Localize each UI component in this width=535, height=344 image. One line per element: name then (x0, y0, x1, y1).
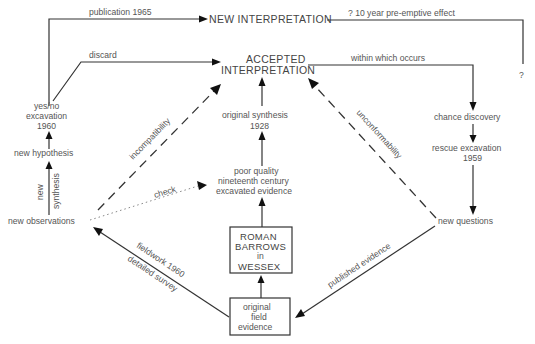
node-roman-line4: WESSEX (238, 261, 281, 272)
node-new-observations: new observations (8, 216, 75, 226)
node-question-mark: ? (519, 70, 524, 80)
node-roman-line3: in (257, 251, 264, 261)
edge-rescue-to-questions (470, 165, 477, 215)
edge-field-to-roman (258, 275, 265, 298)
node-new-hypothesis: new hypothesis (14, 148, 73, 158)
edge-synthesis-to-accepted (259, 77, 266, 106)
node-original-field-evidence: original field evidence (230, 298, 290, 335)
node-field-line1: original (243, 302, 271, 312)
node-field-line2: field (251, 312, 267, 322)
edge-chance-to-rescue (470, 124, 477, 143)
node-yesno-line3: 1960 (37, 121, 56, 131)
edge-roman-to-poor (259, 197, 266, 227)
edge-label-incompatibility: incompatibility (127, 115, 172, 161)
node-yesno-line1: yes/no (34, 101, 60, 111)
edge-label-published-evidence: published evidence (326, 241, 393, 290)
node-field-line3: evidence (238, 322, 273, 332)
node-chance-discovery: chance discovery (434, 112, 501, 122)
node-roman-barrows: ROMAN BARROWS in WESSEX (230, 227, 292, 273)
node-rescue-line2: 1959 (463, 153, 482, 163)
edge-fieldwork: fieldwork 1960 detailed survey (93, 227, 229, 317)
node-yesno-line2: excavation (26, 111, 67, 121)
node-poor-quality-line1: poor quality (234, 166, 279, 176)
edge-label-discard: discard (89, 50, 117, 60)
edge-label-synthesis: synthesis (51, 173, 61, 209)
edge-label-publication: publication 1965 (89, 7, 152, 17)
node-poor-quality-line2: nineteenth century (218, 176, 289, 186)
edge-label-check: check (153, 184, 178, 200)
edge-published-evidence: published evidence (295, 226, 435, 318)
node-accepted-line2: INTERPRETATION (221, 64, 315, 76)
node-original-synthesis-line2: 1928 (250, 121, 269, 131)
edge-within: within which occurs (308, 53, 477, 111)
edge-unconformability: unconformability (308, 78, 436, 218)
edge-discard: discard (53, 50, 221, 101)
node-new-interpretation: NEW INTERPRETATION (209, 13, 332, 25)
node-poor-quality-line3: excavated evidence (216, 186, 292, 196)
edge-label-new: new (35, 183, 45, 200)
edge-label-preemptive: ? 10 year pre-emptive effect (348, 8, 455, 18)
edge-publication: publication 1965 (49, 7, 208, 106)
node-original-synthesis-line1: original synthesis (222, 110, 288, 120)
node-rescue-line1: rescue excavation (432, 143, 501, 153)
edge-preemptive: ? 10 year pre-emptive effect ? (327, 8, 524, 80)
edge-hypothesis-to-excavation (46, 131, 53, 149)
edge-poor-to-synthesis (259, 131, 266, 166)
edge-label-unconformability: unconformability (355, 108, 405, 161)
diagram-canvas: publication 1965 NEW INTERPRETATION ? 10… (0, 0, 535, 344)
edge-new-synthesis: new synthesis (35, 161, 61, 215)
node-new-questions: new questions (438, 216, 493, 226)
edge-label-within: within which occurs (350, 53, 425, 63)
edge-check: check (90, 181, 207, 220)
